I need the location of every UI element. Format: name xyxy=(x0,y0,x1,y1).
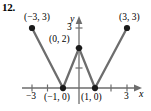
x-axis-label: x xyxy=(139,89,143,99)
figure-container: 12. xyxy=(0,0,151,111)
y-tick-label-3: 3 xyxy=(67,23,72,33)
y-axis-label: y xyxy=(70,14,74,24)
x-tick-label-neg3: −3 xyxy=(26,92,36,102)
point-peak xyxy=(76,45,82,51)
label-right-endpoint: (3, 3) xyxy=(119,13,140,23)
point-right-endpoint xyxy=(124,25,130,31)
y-axis xyxy=(76,16,83,104)
point-left-endpoint xyxy=(29,25,35,31)
label-right-vertex: (1, 0) xyxy=(81,93,102,103)
label-left-endpoint: (−3, 3) xyxy=(24,13,50,23)
point-left-vertex xyxy=(60,85,66,91)
label-peak: (0, 2) xyxy=(49,35,70,45)
x-tick-label-3: 3 xyxy=(124,92,129,102)
point-right-vertex xyxy=(92,85,98,91)
label-left-vertex: (−1, 0) xyxy=(44,93,70,103)
